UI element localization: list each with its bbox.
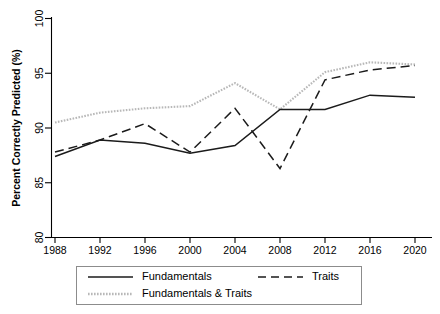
y-tick-label: 90 [33,122,45,134]
x-tick-labels: 198819921996200020042008201220162020 [43,244,427,256]
y-tick-labels: 80 85 90 95 100 [33,10,45,244]
y-axis-label: Percent Correctly Predicted (%) [10,49,22,207]
x-tick-label: 1996 [133,244,157,256]
chart-legend: Fundamentals Traits Fundamentals & Trait… [77,267,362,305]
x-tick-label: 2012 [313,244,337,256]
y-tick-label: 85 [33,177,45,189]
series-line-fundamentals [55,95,415,156]
y-tick-label: 100 [33,10,45,28]
y-tick-label: 80 [33,232,45,244]
legend-label-traits: Traits [312,270,340,282]
x-tick-label: 2004 [223,244,247,256]
series-line-traits [55,66,415,169]
legend-label-fundamentals-and-traits: Fundamentals & Traits [142,287,253,299]
x-tick-label: 1988 [43,244,67,256]
x-tick-label: 2020 [403,244,427,256]
line-chart: 80 85 90 95 100 Percent Correctly Predic… [0,0,440,314]
x-tick-label: 2008 [268,244,292,256]
chart-figure: 80 85 90 95 100 Percent Correctly Predic… [0,0,440,314]
x-tick-label: 1992 [88,244,112,256]
x-tick-label: 2000 [178,244,202,256]
x-tick-label: 2016 [358,244,382,256]
y-tick-label: 95 [33,67,45,79]
legend-label-fundamentals: Fundamentals [142,270,212,282]
y-tick-marks [45,19,52,238]
x-tick-marks [55,238,415,244]
